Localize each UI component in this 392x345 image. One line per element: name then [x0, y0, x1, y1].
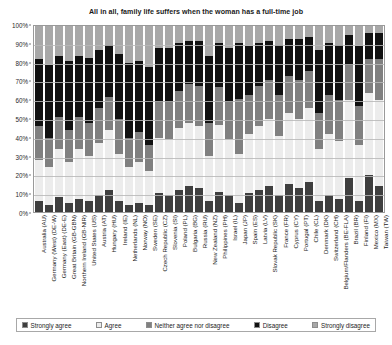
- stacked-bar[interactable]: [165, 26, 173, 212]
- legend-item[interactable]: Neither agree nor disagree: [146, 322, 229, 329]
- bar-segment: [145, 145, 153, 171]
- stacked-bar[interactable]: [375, 26, 383, 212]
- bar-slot[interactable]: [234, 26, 244, 212]
- bar-slot[interactable]: [174, 26, 184, 212]
- bar-segment: [345, 26, 353, 35]
- bar-slot[interactable]: [294, 26, 304, 212]
- stacked-bar[interactable]: [315, 26, 323, 212]
- stacked-bar[interactable]: [45, 26, 53, 212]
- bar-slot[interactable]: [324, 26, 334, 212]
- bar-segment: [335, 199, 343, 212]
- bar-slot[interactable]: [354, 26, 364, 212]
- bar-segment: [365, 26, 373, 33]
- bar-slot[interactable]: [284, 26, 294, 212]
- stacked-bar[interactable]: [355, 26, 363, 212]
- bar-slot[interactable]: [344, 26, 354, 212]
- bar-slot[interactable]: [304, 26, 314, 212]
- bar-slot[interactable]: [154, 26, 164, 212]
- y-axis-tick-label: 30%: [15, 153, 28, 160]
- legend-item[interactable]: Agree: [96, 322, 121, 329]
- bar-slot[interactable]: [214, 26, 224, 212]
- bar-slot[interactable]: [274, 26, 284, 212]
- legend-item[interactable]: Strongly disagree: [312, 322, 370, 329]
- bar-slot[interactable]: [84, 26, 94, 212]
- bar-slot[interactable]: [64, 26, 74, 212]
- bar-slot[interactable]: [34, 26, 44, 212]
- bar-slot[interactable]: [254, 26, 264, 212]
- stacked-bar[interactable]: [345, 26, 353, 212]
- stacked-bar[interactable]: [65, 26, 73, 212]
- stacked-bar[interactable]: [135, 26, 143, 212]
- bar-segment: [85, 123, 93, 156]
- stacked-bar[interactable]: [275, 26, 283, 212]
- bar-slot[interactable]: [54, 26, 64, 212]
- stacked-bar[interactable]: [255, 26, 263, 212]
- bar-slot[interactable]: [144, 26, 154, 212]
- stacked-bar[interactable]: [125, 26, 133, 212]
- bar-slot[interactable]: [374, 26, 384, 212]
- bar-slot[interactable]: [74, 26, 84, 212]
- stacked-bar[interactable]: [95, 26, 103, 212]
- bar-segment: [145, 26, 153, 67]
- stacked-bar[interactable]: [85, 26, 93, 212]
- bar-slot[interactable]: [334, 26, 344, 212]
- stacked-bar[interactable]: [335, 26, 343, 212]
- bar-segment: [305, 182, 313, 212]
- legend-item[interactable]: Strongly agree: [22, 322, 71, 329]
- stacked-bar[interactable]: [305, 26, 313, 212]
- bar-slot[interactable]: [164, 26, 174, 212]
- bar-segment: [225, 102, 233, 139]
- stacked-bar[interactable]: [285, 26, 293, 212]
- stacked-bar[interactable]: [155, 26, 163, 212]
- stacked-bar[interactable]: [55, 26, 63, 212]
- bar-slot[interactable]: [194, 26, 204, 212]
- bar-slot[interactable]: [264, 26, 274, 212]
- x-axis-tick: Japan (JP): [234, 214, 244, 310]
- bar-slot[interactable]: [314, 26, 324, 212]
- bar-segment: [295, 39, 303, 80]
- stacked-bar[interactable]: [175, 26, 183, 212]
- stacked-bar[interactable]: [75, 26, 83, 212]
- stacked-bar[interactable]: [185, 26, 193, 212]
- bar-slot[interactable]: [244, 26, 254, 212]
- stacked-bar[interactable]: [105, 26, 113, 212]
- bar-segment: [255, 86, 263, 127]
- bar-segment: [125, 167, 133, 204]
- bar-slot[interactable]: [44, 26, 54, 212]
- bar-segment: [135, 162, 143, 203]
- stacked-bar[interactable]: [245, 26, 253, 212]
- x-axis-tick: Bulgaria (BG): [184, 214, 194, 310]
- bar-slot[interactable]: [114, 26, 124, 212]
- stacked-bar[interactable]: [145, 26, 153, 212]
- bar-segment: [105, 45, 113, 97]
- x-axis-tick: Cyprus (CY): [285, 214, 295, 310]
- bar-slot[interactable]: [204, 26, 214, 212]
- stacked-bar[interactable]: [365, 26, 373, 212]
- bar-slot[interactable]: [184, 26, 194, 212]
- bar-segment: [125, 205, 133, 212]
- stacked-bar[interactable]: [265, 26, 273, 212]
- stacked-bar[interactable]: [35, 26, 43, 212]
- bar-slot[interactable]: [104, 26, 114, 212]
- stacked-bar[interactable]: [205, 26, 213, 212]
- stacked-bar[interactable]: [325, 26, 333, 212]
- bar-slot[interactable]: [364, 26, 374, 212]
- bar-slot[interactable]: [124, 26, 134, 212]
- stacked-bar[interactable]: [215, 26, 223, 212]
- legend-item[interactable]: Disagree: [254, 322, 288, 329]
- bar-slot[interactable]: [94, 26, 104, 212]
- stacked-bar[interactable]: [235, 26, 243, 212]
- bar-segment: [35, 59, 43, 126]
- y-axis-tick-label: 70%: [15, 78, 28, 85]
- y-axis-tick-mark: [29, 194, 31, 195]
- stacked-bar[interactable]: [225, 26, 233, 212]
- bar-segment: [265, 80, 273, 119]
- stacked-bar[interactable]: [295, 26, 303, 212]
- bar-segment: [185, 41, 193, 84]
- bar-slot[interactable]: [224, 26, 234, 212]
- y-axis-tick-label: 90%: [15, 40, 28, 47]
- bar-slot[interactable]: [134, 26, 144, 212]
- bar-segment: [285, 26, 293, 39]
- stacked-bar[interactable]: [115, 26, 123, 212]
- stacked-bar[interactable]: [195, 26, 203, 212]
